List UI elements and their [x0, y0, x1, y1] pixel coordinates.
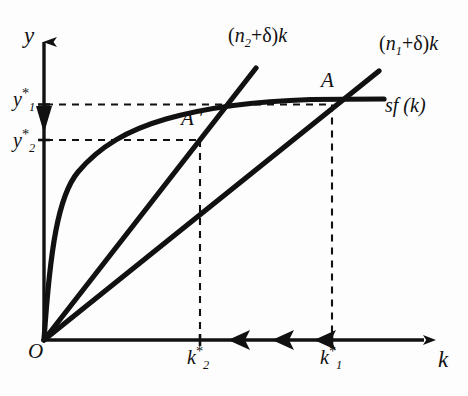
k1-tick-label: k*1 — [320, 344, 342, 371]
n2-line-label: (n2+δ)k — [228, 25, 287, 49]
n1-paren-open: ( — [379, 32, 386, 54]
y1-tick-label: y*1 — [13, 86, 35, 113]
k2-base: k — [187, 346, 196, 368]
sf-curve-label: sf (k) — [385, 95, 426, 115]
y1-base: y — [13, 88, 22, 110]
k1-star: * — [329, 343, 336, 359]
y1-sub: 1 — [29, 100, 35, 114]
y2-sub: 2 — [29, 141, 35, 155]
k2-sub: 2 — [203, 358, 209, 372]
n2-delta: δ — [262, 24, 271, 46]
y1-star: * — [22, 85, 29, 101]
n1-plus: + — [402, 32, 413, 54]
k2-star: * — [196, 343, 203, 359]
diagram-canvas — [0, 0, 468, 396]
n1-line-label: (n1+δ)k — [379, 33, 438, 57]
y2-tick-label: y*2 — [13, 127, 35, 154]
n1-k: k — [429, 32, 438, 54]
x-axis-label: k — [438, 348, 448, 371]
y-axis-label: y — [24, 24, 34, 47]
n1-n: n — [386, 32, 396, 54]
n2-plus: + — [251, 24, 262, 46]
n2-line — [44, 68, 256, 340]
point-a-label: A — [321, 70, 334, 91]
k2-tick-label: k*2 — [187, 344, 209, 371]
solow-model-diagram: y k O y*1 y*2 k*1 k*2 A A ′ sf (k) (n1+δ… — [0, 0, 468, 396]
point-a-prime-label: A ′ — [181, 108, 203, 129]
y-axis-down-arrow — [36, 106, 52, 133]
y2-star: * — [22, 126, 29, 142]
y2-base: y — [13, 129, 22, 151]
n2-k: k — [278, 24, 287, 46]
n1-delta: δ — [413, 32, 422, 54]
origin-label: O — [28, 341, 43, 362]
n2-paren-open: ( — [228, 24, 235, 46]
n2-n: n — [235, 24, 245, 46]
k1-base: k — [320, 346, 329, 368]
k1-sub: 1 — [336, 358, 342, 372]
